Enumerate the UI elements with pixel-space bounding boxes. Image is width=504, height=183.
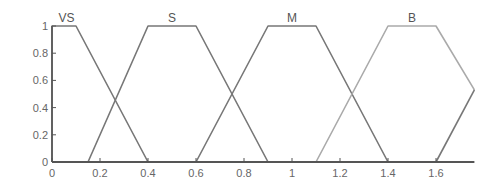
series-layer [52,26,474,162]
x-tick-label: 0.2 [92,167,107,179]
series-m-line [196,26,388,162]
mf-label-b: B [408,11,416,25]
y-tick-label: 0.4 [33,102,48,114]
series-b-line [316,26,474,162]
x-tick-label: 0 [49,167,55,179]
x-tick-label: 0.8 [236,167,251,179]
mf-label-vs: VS [58,11,74,25]
x-tick-label: 0.6 [188,167,203,179]
y-tick-label: 0.2 [33,129,48,141]
x-tick-label: 1 [289,167,295,179]
x-tick-label: 1.6 [428,167,443,179]
membership-function-chart: 00.20.40.60.8100.20.40.60.811.21.41.6VSS… [0,0,504,183]
series-unlabeled-line [436,90,474,162]
y-tick-label: 1 [42,20,48,32]
x-tick-label: 1.2 [332,167,347,179]
mf-label-m: M [287,11,297,25]
x-tick-label: 1.4 [380,167,395,179]
y-tick-label: 0.6 [33,74,48,86]
x-tick-label: 0.4 [140,167,155,179]
y-tick-label: 0.8 [33,47,48,59]
mf-label-s: S [168,11,176,25]
axes [52,26,474,162]
series-vs-line [52,26,148,162]
series-s-line [88,26,268,162]
y-tick-label: 0 [42,156,48,168]
